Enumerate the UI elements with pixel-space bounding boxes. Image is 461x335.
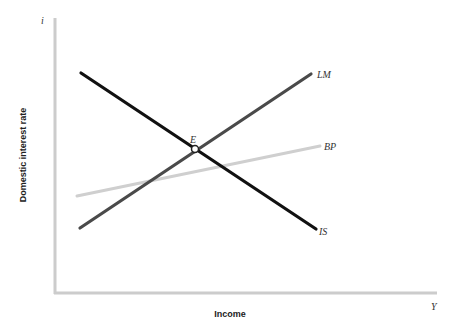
equilibrium-point <box>192 146 199 153</box>
y-axis-title: Domestic interest rate <box>18 108 28 203</box>
x-axis-title: Income <box>214 309 246 319</box>
is-label: IS <box>318 226 327 237</box>
bp-curve <box>77 146 320 196</box>
lm-label: LM <box>316 69 332 80</box>
y-axis-symbol: i <box>41 15 44 26</box>
x-axis-symbol: Y <box>431 301 438 312</box>
chart-canvas: i Y LM BP IS E Income Domestic interest … <box>0 0 461 335</box>
equilibrium-label: E <box>189 134 196 145</box>
bp-label: BP <box>324 141 336 152</box>
